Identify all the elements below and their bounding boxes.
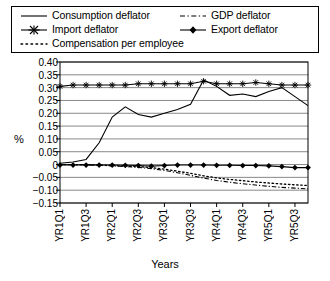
y-axis-tick-label: 0.15 bbox=[22, 122, 58, 131]
legend-label: Compensation per employee bbox=[52, 38, 184, 49]
x-axis-tick-label: YR4Q3 bbox=[237, 209, 248, 242]
legend-label: GDP deflator bbox=[211, 10, 270, 21]
x-axis-tick-label: YR5Q1 bbox=[263, 209, 274, 242]
y-axis-tick-label: −0.05 bbox=[22, 173, 58, 182]
x-axis-tick-label: YR1Q3 bbox=[80, 209, 91, 242]
x-axis-tick-label: YR4Q1 bbox=[211, 209, 222, 242]
legend-label: Export deflator bbox=[211, 24, 278, 35]
y-axis-tick-label: 0.20 bbox=[22, 109, 58, 118]
y-axis-tick-label: 0.05 bbox=[22, 147, 58, 156]
x-axis-tick-label: YR3Q1 bbox=[158, 209, 169, 242]
x-axis-tick-label: YR1Q1 bbox=[54, 209, 65, 242]
y-axis-tick-label: 0 bbox=[22, 160, 58, 169]
legend-label: Consumption deflator bbox=[52, 10, 150, 21]
y-axis-tick-label: 0.10 bbox=[22, 134, 58, 143]
y-axis-tick-label: 0.30 bbox=[22, 83, 58, 92]
legend-item-gdp-deflator: GDP deflator bbox=[178, 10, 270, 21]
legend-label: Import deflator bbox=[52, 24, 118, 35]
x-axis-title: Years bbox=[0, 258, 330, 270]
legend-key-dashdot-line-icon bbox=[178, 10, 208, 21]
y-axis-tick-label: −0.10 bbox=[22, 186, 58, 195]
x-axis-tick-label: YR5Q3 bbox=[289, 209, 300, 242]
y-axis-tick-label: 0.25 bbox=[22, 96, 58, 105]
legend-key-diamond-marker-icon bbox=[178, 24, 208, 35]
y-axis-tick-label: 0.35 bbox=[22, 70, 58, 79]
x-axis-tick-label: YR2Q3 bbox=[132, 209, 143, 242]
chart-figure: Consumption deflator Import deflator bbox=[0, 0, 330, 281]
x-axis-tick-label: YR2Q1 bbox=[106, 209, 117, 242]
y-axis-tick-label: −0.15 bbox=[22, 199, 58, 208]
y-axis-tick-label: 0.40 bbox=[22, 58, 58, 67]
legend-item-export-deflator: Export deflator bbox=[178, 24, 278, 35]
y-axis-tick-labels: 0.400.350.300.250.200.150.100.050−0.05−0… bbox=[20, 0, 58, 281]
x-axis-tick-label: YR3Q3 bbox=[185, 209, 196, 242]
